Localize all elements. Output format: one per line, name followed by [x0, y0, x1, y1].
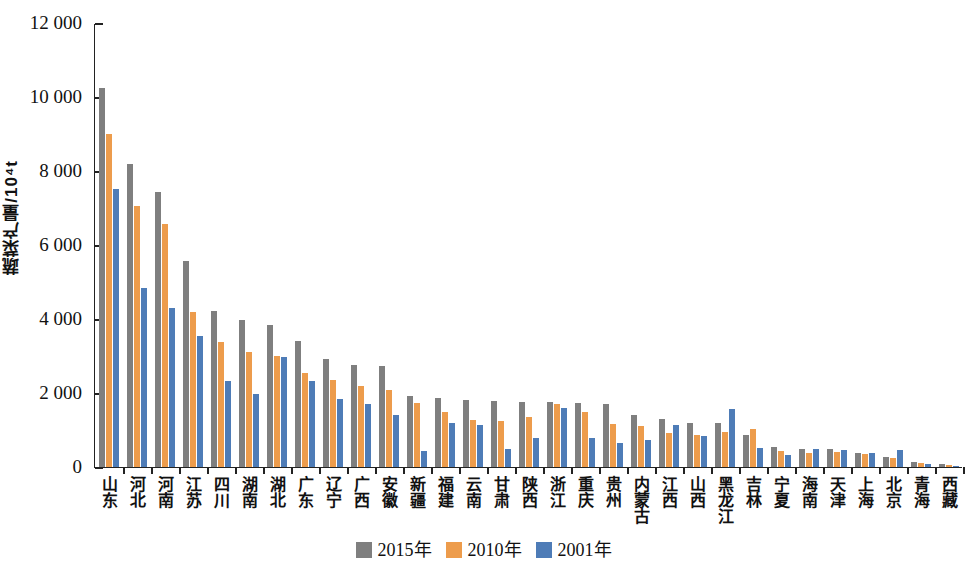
x-axis-tick	[795, 467, 797, 474]
x-axis-label-27: 上海	[855, 476, 873, 508]
bar	[631, 415, 637, 467]
bar	[162, 224, 168, 467]
x-axis-label-23: 吉林	[743, 476, 761, 508]
x-axis-label-0: 山东	[99, 476, 117, 508]
legend-item-1[interactable]: 2010年	[446, 540, 522, 560]
bar-group	[487, 24, 515, 467]
bar	[477, 425, 483, 467]
bar	[414, 403, 420, 467]
y-axis-tick-mark	[95, 467, 103, 469]
bar	[239, 320, 245, 467]
bar	[589, 438, 595, 467]
bar	[351, 365, 357, 467]
bar-group	[95, 24, 123, 467]
chart-legend: 2015年2010年2001年	[0, 540, 967, 560]
bar	[302, 373, 308, 467]
x-axis-tick	[375, 467, 377, 474]
bar	[225, 381, 231, 467]
bar	[687, 423, 693, 467]
bar-group	[515, 24, 543, 467]
bar-group	[767, 24, 795, 467]
x-axis-tick	[683, 467, 685, 474]
bar	[155, 192, 161, 467]
bar-group	[907, 24, 935, 467]
bar	[386, 390, 392, 467]
bar-group	[151, 24, 179, 467]
bar-group	[319, 24, 347, 467]
bar-group	[263, 24, 291, 467]
bar-group	[823, 24, 851, 467]
x-axis-tick	[935, 467, 937, 474]
bar	[813, 449, 819, 467]
legend-swatch-icon	[536, 542, 552, 558]
x-axis-tick	[459, 467, 461, 474]
x-axis-label-8: 辽宁	[323, 476, 341, 508]
bar	[337, 399, 343, 467]
x-axis-tick	[711, 467, 713, 474]
legend-swatch-icon	[356, 542, 372, 558]
bar	[519, 402, 525, 467]
bar-group	[403, 24, 431, 467]
bar	[778, 451, 784, 467]
x-axis-tick	[599, 467, 601, 474]
bar	[806, 453, 812, 467]
bar	[498, 421, 504, 467]
bar	[946, 465, 952, 467]
bar	[582, 412, 588, 467]
bar	[435, 398, 441, 467]
bar-group	[291, 24, 319, 467]
bar	[757, 448, 763, 467]
bar-group	[851, 24, 879, 467]
bar	[561, 408, 567, 467]
bar	[827, 449, 833, 467]
x-axis-label-7: 广东	[295, 476, 313, 508]
x-axis-tick	[515, 467, 517, 474]
bar	[190, 312, 196, 467]
bar	[253, 394, 259, 467]
x-axis-label-22: 黑龙江	[715, 476, 733, 524]
bar	[729, 409, 735, 467]
x-axis-label-20: 江西	[659, 476, 677, 508]
bar	[869, 453, 875, 467]
x-axis-tick	[431, 467, 433, 474]
x-axis-label-13: 云南	[463, 476, 481, 508]
bar	[834, 452, 840, 467]
legend-label: 2015年	[378, 540, 432, 560]
x-axis-tick	[627, 467, 629, 474]
bar	[666, 433, 672, 467]
bar	[799, 449, 805, 467]
bar	[379, 366, 385, 467]
x-axis-tick	[907, 467, 909, 474]
bar	[113, 189, 119, 467]
bar	[897, 450, 903, 467]
bar	[743, 435, 749, 467]
x-axis-label-24: 宁夏	[771, 476, 789, 508]
bar	[470, 420, 476, 467]
x-axis-tick	[347, 467, 349, 474]
bar	[141, 288, 147, 467]
y-axis-tick-label: 8 000	[39, 160, 82, 182]
legend-item-2[interactable]: 2001年	[536, 540, 612, 560]
bar	[211, 311, 217, 467]
bar	[701, 436, 707, 467]
x-axis-label-14: 甘肃	[491, 476, 509, 508]
bar	[617, 443, 623, 467]
x-axis-tick	[235, 467, 237, 474]
x-axis-label-19: 内蒙古	[631, 476, 649, 524]
bar-group	[683, 24, 711, 467]
x-axis-tick	[823, 467, 825, 474]
legend-item-0[interactable]: 2015年	[356, 540, 432, 560]
bar	[939, 464, 945, 467]
bar	[526, 417, 532, 467]
bar	[750, 429, 756, 467]
bar	[246, 352, 252, 467]
bar	[953, 466, 959, 467]
x-axis-label-17: 重庆	[575, 476, 593, 508]
bars-layer	[95, 24, 962, 467]
bar	[365, 404, 371, 467]
x-axis-tick	[543, 467, 545, 474]
bar	[862, 454, 868, 467]
bar	[911, 462, 917, 467]
bar	[127, 164, 133, 467]
bar	[575, 403, 581, 467]
